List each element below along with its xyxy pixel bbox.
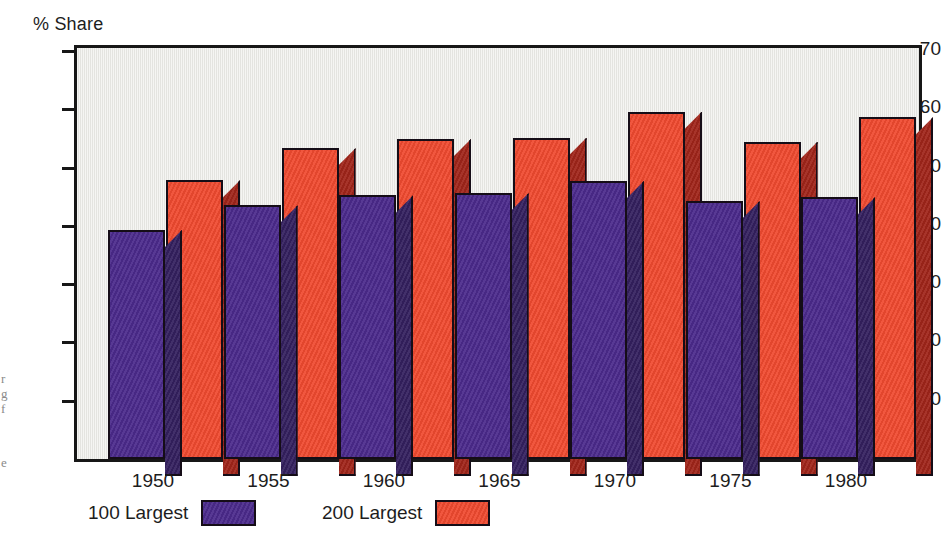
- legend-swatch: [201, 500, 256, 526]
- bar-100-largest: [801, 197, 858, 459]
- bar-100-largest-front-face: [224, 205, 281, 459]
- x-axis-tick-label: 1960: [327, 470, 441, 492]
- bar-100-largest-side-face: [512, 193, 529, 476]
- x-axis-tick-label: 1965: [443, 470, 557, 492]
- bar-100-largest-side-face: [165, 230, 182, 476]
- bar-100-largest-front-face: [686, 201, 743, 459]
- legend-item-200-largest: 200 Largest: [322, 498, 490, 528]
- page-bleed-text-4: e: [1, 455, 7, 471]
- bar-100-largest: [108, 230, 165, 459]
- x-axis-tick-label: 1955: [212, 470, 326, 492]
- page-bleed-text-1: r: [1, 371, 5, 387]
- bar-100-largest: [686, 201, 743, 459]
- bar-200-largest-side-face: [916, 117, 933, 476]
- bar-chart-figure: % Share r g f e 10203040506070 195019551…: [0, 0, 941, 538]
- bar-100-largest-front-face: [570, 181, 627, 459]
- legend-label: 100 Largest: [88, 502, 188, 524]
- y-axis-tick: [62, 108, 74, 111]
- legend-label: 200 Largest: [322, 502, 422, 524]
- x-axis-tick-label: 1950: [96, 470, 210, 492]
- bar-100-largest: [455, 193, 512, 459]
- bar-100-largest: [339, 195, 396, 459]
- legend-swatch: [435, 500, 490, 526]
- bar-100-largest-front-face: [801, 197, 858, 459]
- bar-100-largest: [224, 205, 281, 459]
- bar-100-largest-front-face: [339, 195, 396, 459]
- page-bleed-text-2: g: [1, 386, 8, 402]
- x-axis-tick-label: 1975: [674, 470, 788, 492]
- bars-container: [74, 45, 922, 462]
- legend-item-100-largest: 100 Largest: [88, 498, 256, 528]
- y-axis-tick: [62, 225, 74, 228]
- y-axis-tick: [62, 400, 74, 403]
- x-axis-tick-label: 1980: [789, 470, 903, 492]
- bar-100-largest-side-face: [858, 197, 875, 476]
- y-axis-tick: [62, 341, 74, 344]
- bar-100-largest-side-face: [627, 181, 644, 476]
- x-axis-tick-label: 1970: [558, 470, 672, 492]
- bar-100-largest-front-face: [455, 193, 512, 459]
- bar-100-largest: [570, 181, 627, 459]
- y-axis-tick: [62, 283, 74, 286]
- y-axis-tick: [62, 167, 74, 170]
- bar-100-largest-side-face: [281, 205, 298, 476]
- y-axis-title: % Share: [33, 14, 103, 35]
- bar-100-largest-side-face: [743, 201, 760, 476]
- page-bleed-text-3: f: [1, 401, 5, 417]
- y-axis-tick: [62, 50, 74, 53]
- bar-100-largest-front-face: [108, 230, 165, 459]
- bar-100-largest-side-face: [396, 195, 413, 476]
